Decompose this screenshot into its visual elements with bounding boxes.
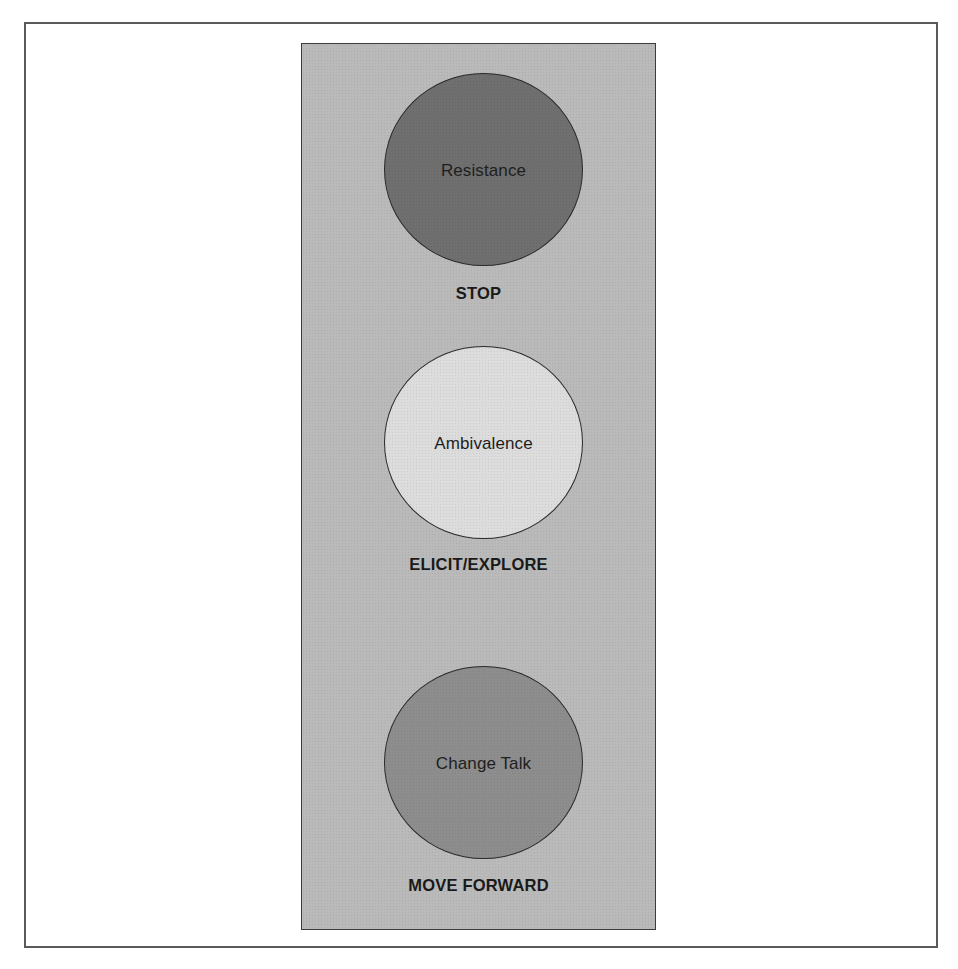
- light-ambivalence: Ambivalence: [384, 346, 583, 539]
- light-resistance: Resistance: [384, 73, 583, 266]
- light-change-talk: Change Talk: [384, 666, 583, 859]
- traffic-light-panel: Resistance STOP Ambivalence ELICIT/EXPLO…: [301, 43, 656, 930]
- action-label-stop: STOP: [302, 284, 655, 303]
- light-label-resistance: Resistance: [441, 161, 526, 181]
- action-label-elicit-explore: ELICIT/EXPLORE: [302, 555, 655, 574]
- light-label-change-talk: Change Talk: [436, 754, 531, 774]
- light-label-ambivalence: Ambivalence: [434, 434, 532, 454]
- action-label-move-forward: MOVE FORWARD: [302, 876, 655, 895]
